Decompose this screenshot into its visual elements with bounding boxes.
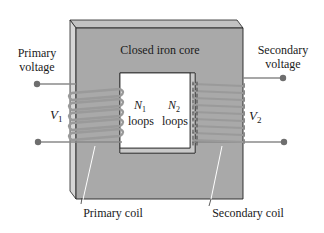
primary-coil-label: Primary coil xyxy=(83,206,143,220)
primary-voltage-label-2: voltage xyxy=(19,60,54,74)
secondary-voltage-label-2: voltage xyxy=(265,57,300,71)
n2-loops-label: loops xyxy=(162,114,188,128)
transformer-diagram: Closed iron core Primary voltage Seconda… xyxy=(0,0,324,233)
secondary-terminal-top xyxy=(280,75,286,81)
v1-label: V1 xyxy=(50,107,62,124)
core-label: Closed iron core xyxy=(120,43,199,57)
secondary-coil-label: Secondary coil xyxy=(212,206,284,220)
v2-label: V2 xyxy=(249,108,261,125)
core-top-face xyxy=(70,20,243,28)
primary-terminal-top xyxy=(34,81,40,87)
n1-loops-label: loops xyxy=(128,114,154,128)
primary-voltage-label-1: Primary xyxy=(18,46,57,60)
secondary-terminal-bottom xyxy=(281,139,287,145)
secondary-voltage-label-1: Secondary xyxy=(258,43,309,57)
primary-terminal-bottom xyxy=(35,139,41,145)
